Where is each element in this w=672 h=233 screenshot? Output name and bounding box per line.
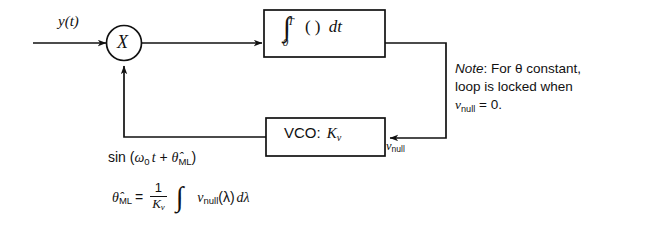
time-variable: t [152, 150, 156, 165]
integrand-subscript: null [203, 195, 218, 206]
plus-sign: + [159, 149, 167, 165]
omega-subscript: 0 [144, 156, 149, 167]
estimator-lhs-subscript: ML [119, 195, 132, 206]
fraction-denominator-subscript: v [161, 202, 165, 212]
estimator-fraction: 1 Kv [150, 181, 167, 213]
estimator-equals: = [135, 189, 143, 205]
note-block: Note: For θ constant, loop is locked whe… [455, 60, 581, 115]
vco-text: VCO: [284, 124, 321, 141]
estimator-integral-symbol: ∫ [176, 181, 184, 212]
theta-hat-symbol: θ̂ [172, 150, 179, 166]
input-signal-label: y(t) [58, 13, 79, 30]
integral-upper-limit: T [288, 15, 294, 27]
null-signal-subscript: null [392, 144, 405, 154]
fraction-denominator-symbol: K [152, 196, 161, 211]
note-keyword: Note [455, 61, 484, 76]
sin-prefix: sin ( [108, 149, 134, 165]
diagram-canvas: X y(t) ∫T0 ( ) dt VCO:Kv νnull Note: For… [0, 0, 672, 233]
omega-symbol: ω [134, 150, 144, 165]
integrator-output-path [385, 43, 446, 138]
integrand-argument: (λ) [218, 189, 234, 205]
note-line-3: νnull = 0. [455, 96, 581, 115]
note-line-1: Note: For θ constant, [455, 60, 581, 78]
multiplier-symbol: X [117, 32, 128, 52]
note-line-3-rest: = 0. [475, 97, 502, 112]
feedback-signal-label: sin (ω0t + θ̂ML) [108, 150, 196, 167]
integral-lower-limit: 0 [283, 36, 289, 48]
integrator-expression: ∫T0 ( ) dt [283, 17, 342, 36]
vco-feedback-path [124, 66, 266, 137]
fraction-numerator: 1 [150, 181, 167, 196]
note-line-1-rest: For θ constant, [487, 61, 581, 76]
vco-gain-subscript: v [337, 132, 342, 143]
vco-label: VCO:Kv [284, 125, 341, 143]
null-signal-label: νnull [386, 139, 405, 155]
estimator-equation: θ̂ML= 1 Kv ∫ νnull(λ)dλ [112, 182, 250, 214]
note-null-subscript: null [461, 104, 475, 114]
sin-suffix: ) [192, 149, 197, 165]
integrator-differential: dt [329, 17, 342, 36]
estimator-lhs-symbol: θ̂ [112, 190, 119, 205]
estimator-differential: dλ [237, 190, 250, 205]
fraction-denominator: Kv [150, 196, 167, 213]
theta-subscript: ML [178, 156, 191, 167]
vco-gain-symbol: K [327, 125, 337, 141]
note-line-2: loop is locked when [455, 78, 581, 96]
integrator-argument: ( ) [305, 17, 321, 36]
